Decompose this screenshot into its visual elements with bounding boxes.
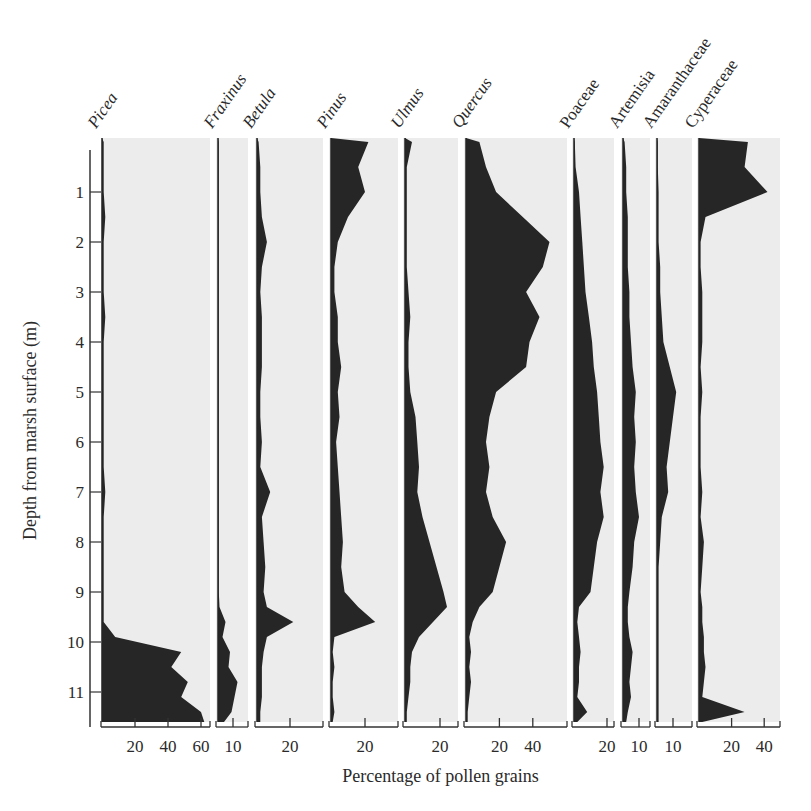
panel-amaranthaceae: 10 [655,138,692,756]
x-tick-label: 20 [599,737,616,756]
x-tick-label: 40 [756,737,773,756]
x-tick-label: 10 [665,737,682,756]
panel-cyperaceae: 2040 [697,138,780,756]
y-tick-label: 2 [76,233,85,252]
x-axis-label: Percentage of pollen grains [0,766,811,787]
y-tick-label: 9 [76,583,85,602]
x-tick-label: 10 [225,737,242,756]
y-tick-label: 10 [67,633,84,652]
y-tick-label: 6 [76,433,85,452]
panel-betula: 20 [255,138,323,756]
y-tick-label: 8 [76,533,85,552]
x-tick-label: 20 [432,737,449,756]
y-axis-label: Depth from marsh surface (m) [20,281,41,581]
y-tick-label: 5 [76,383,85,402]
x-tick-label: 10 [631,737,648,756]
y-tick-label: 4 [76,333,85,352]
panel-fraxinus: 10 [216,138,248,756]
pollen-diagram: 1234567891011204060102020202040201010204… [0,0,811,811]
panel-quercus: 2040 [464,138,567,756]
y-tick-label: 1 [76,183,85,202]
y-tick-label: 11 [68,683,84,702]
y-tick-label: 3 [76,283,85,302]
panel-picea: 204060 [101,138,210,756]
panel-background [101,138,210,722]
panel-artemisia: 10 [621,138,650,756]
panel-poaceae: 20 [572,138,616,756]
x-tick-label: 60 [193,737,210,756]
panel-pinus: 20 [329,138,398,756]
x-tick-label: 20 [357,737,374,756]
x-tick-label: 20 [723,737,740,756]
x-tick-label: 20 [127,737,144,756]
x-tick-label: 40 [524,737,541,756]
x-tick-label: 20 [491,737,508,756]
panel-background [697,138,780,722]
panel-ulmus: 20 [403,138,458,756]
x-tick-label: 40 [160,737,177,756]
x-tick-label: 20 [282,737,299,756]
y-tick-label: 7 [76,483,85,502]
